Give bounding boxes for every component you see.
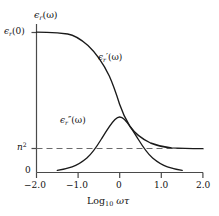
n-squared-exponent: 2 <box>23 141 27 148</box>
annotation-epsilon-real: ϵr′(ω) <box>98 53 122 63</box>
y-tick-label-eps-zero: ϵr(0) <box>4 27 25 37</box>
x-axis-title-log: Log <box>87 195 105 206</box>
y-axis-title-arg: (ω) <box>42 9 57 20</box>
annotation-epsilon-imaginary: ϵr″(ω) <box>60 116 86 126</box>
y-tick-label-n-squared: n2 <box>17 142 27 152</box>
x-tick-label-3: 1.0 <box>154 181 168 190</box>
curve-epsilon-real <box>37 32 204 149</box>
x-axis-title: Log10ωτ <box>87 196 129 207</box>
y-axis-title: ϵr(ω) <box>34 10 58 21</box>
y-tick-eps0-arg: (0) <box>12 26 25 36</box>
x-tick-label-1: −1.0 <box>66 181 88 190</box>
x-tick-label-2: 0 <box>116 181 122 190</box>
y-tick-label-zero: 0 <box>25 166 31 175</box>
x-tick-label-4: 2.0 <box>196 181 210 190</box>
dielectric-permittivity-chart: ϵr(ω) ϵr(0) n2 0 −2.0 −1.0 0 1.0 2.0 Log… <box>0 0 219 216</box>
x-tick-label-0: −2.0 <box>24 181 46 190</box>
x-axis-title-arg: ωτ <box>116 195 129 206</box>
ann-real-arg: (ω) <box>108 52 122 62</box>
x-axis-title-sub: 10 <box>105 200 113 208</box>
ann-imag-arg: (ω) <box>71 115 85 125</box>
